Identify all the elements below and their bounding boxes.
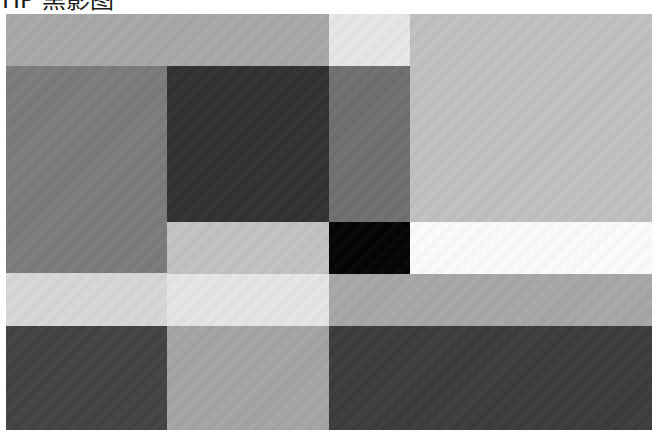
page-title: HP 黑影图 bbox=[2, 0, 114, 14]
block-r1-left bbox=[6, 14, 329, 66]
block-r4-right bbox=[329, 274, 652, 326]
block-r4-c2 bbox=[167, 274, 329, 326]
block-r3-c3 bbox=[329, 222, 410, 274]
block-r1-right bbox=[410, 14, 652, 222]
block-r5-right bbox=[329, 326, 652, 430]
block-r3-right bbox=[410, 222, 652, 274]
block-r3-c2 bbox=[167, 222, 329, 274]
block-r4-left bbox=[6, 273, 167, 326]
block-r2-left bbox=[6, 66, 167, 273]
block-r2-c3 bbox=[329, 66, 410, 222]
block-r5-c2 bbox=[167, 326, 329, 430]
block-r2-c2 bbox=[167, 66, 329, 222]
block-r1-mid bbox=[329, 14, 410, 66]
block-r5-left bbox=[6, 326, 167, 430]
